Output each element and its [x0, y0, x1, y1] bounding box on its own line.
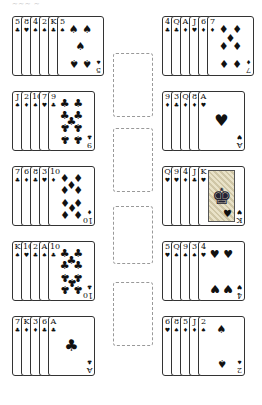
- playing-card[interactable]: 5♠5♠♠♠♠♠♠: [57, 16, 104, 76]
- card-rank: 5: [182, 318, 189, 326]
- card-rank: 4: [164, 18, 171, 26]
- card-index-top: A♠: [41, 243, 48, 258]
- card-index-top: 7♥: [41, 93, 48, 108]
- suit-icon: ♥: [164, 176, 171, 183]
- foundation-slot-4[interactable]: [113, 282, 153, 346]
- card-index-top: 3♣: [173, 93, 180, 108]
- playing-card[interactable]: 9♣9♣♣♣♣♣♣♣♣♣♣: [48, 91, 95, 151]
- playing-card[interactable]: 10♣10♣♣♣♣♣♣♣♣♣♣♣: [48, 241, 95, 301]
- suit-pip-icon: ♦: [73, 184, 83, 195]
- suit-pip-icon: ♦: [232, 41, 242, 52]
- suit-icon: ♣: [41, 326, 48, 333]
- card-index-top: A♣: [50, 318, 57, 333]
- card-rank: 6: [164, 318, 171, 326]
- card-rank: 7: [245, 66, 252, 74]
- suit-icon: ♣: [173, 101, 180, 108]
- suit-icon: ♥: [23, 26, 30, 33]
- foundation-slot-3[interactable]: [113, 206, 153, 264]
- card-index-top: K♥: [200, 168, 207, 183]
- card-index-top: 3♦: [32, 318, 39, 333]
- suit-icon: ♥: [41, 101, 48, 108]
- suit-icon: ♦: [200, 26, 207, 33]
- playing-card[interactable]: K♥K♥♚♥: [198, 166, 245, 226]
- suit-icon: ♥: [200, 251, 207, 258]
- playing-card[interactable]: 7♦7♦♦♦♦♦♦♦♦: [207, 16, 254, 76]
- card-index-bottom: A♣: [86, 359, 93, 374]
- suit-pip-icon: ♣: [60, 133, 70, 144]
- suit-icon: ♣: [164, 26, 171, 33]
- card-index-bottom: 5♠: [95, 59, 102, 74]
- card-rank: 3: [41, 168, 48, 176]
- card-rank: 10: [32, 93, 39, 101]
- suit-icon: ♠: [59, 26, 66, 33]
- suit-pip-icon: ♦: [60, 208, 70, 219]
- suit-pip-icon: ♦: [219, 41, 229, 52]
- suit-icon: ♣: [50, 326, 57, 333]
- card-index-top: 6♣: [41, 318, 48, 333]
- card-index-top: K♣: [50, 18, 57, 33]
- playing-card[interactable]: 10♦10♦♦♦♦♦♦♦♦♦♦♦: [48, 166, 95, 226]
- card-index-top: 6♥: [164, 318, 171, 333]
- card-index-top: 9♥: [173, 168, 180, 183]
- card-index-top: Q♣: [173, 18, 180, 33]
- suit-icon: ♦: [32, 326, 39, 333]
- card-index-bottom: 2♠: [236, 359, 243, 374]
- playing-card[interactable]: A♥A♥♥: [198, 91, 245, 151]
- suit-pip-icon: ♣: [60, 122, 70, 133]
- card-index-top: 7♣: [14, 318, 21, 333]
- card-rank: K: [200, 168, 207, 176]
- card-pips: ♦♦♦♦♦♦♦♦♦♦: [58, 170, 85, 222]
- card-rank: 7: [209, 18, 216, 26]
- suit-icon: ♥: [236, 209, 243, 216]
- suit-icon: ♥: [191, 26, 198, 33]
- playing-card[interactable]: A♣A♣♣: [48, 316, 95, 376]
- suit-icon: ♦: [209, 26, 216, 33]
- card-index-top: J♣: [191, 168, 198, 183]
- card-pips: ♥♥♥♥: [208, 245, 235, 297]
- foundation-slot-2[interactable]: [113, 128, 153, 192]
- card-rank: 2: [200, 318, 207, 326]
- card-rank: 2: [236, 366, 243, 374]
- card-rank: 10: [50, 168, 57, 176]
- card-index-top: 8♥: [23, 18, 30, 33]
- card-index-bottom: 7♦: [245, 59, 252, 74]
- suit-icon: ♣: [50, 26, 57, 33]
- card-index-top: 10♠: [32, 93, 39, 108]
- suit-icon: ♣: [32, 251, 39, 258]
- card-rank: A: [182, 18, 189, 26]
- card-index-top: 2♦: [23, 93, 30, 108]
- card-rank: 2: [41, 18, 48, 26]
- card-index-top: J♠: [14, 93, 21, 108]
- suit-pip-icon: ♦: [219, 57, 229, 68]
- card-index-top: 9♦: [164, 93, 171, 108]
- card-rank: 10: [23, 243, 30, 251]
- card-pips: ♣♣♣♣♣♣♣♣♣♣: [58, 245, 85, 297]
- playing-card[interactable]: 4♥4♥♥♥♥♥: [198, 241, 245, 301]
- card-rank: 6: [200, 18, 207, 26]
- suit-icon: ♣: [86, 359, 93, 366]
- suit-pip-icon: ♠: [82, 24, 92, 35]
- suit-icon: ♥: [173, 176, 180, 183]
- tableau-row-left-5: 7♣K♦3♦6♣A♣A♣♣: [12, 316, 95, 378]
- card-rank: 9: [86, 141, 93, 149]
- card-pips: ♣♣♣♣♣♣♣♣♣: [58, 95, 85, 147]
- foundation-slot-1[interactable]: [113, 53, 153, 117]
- card-rank: 3: [173, 93, 180, 101]
- suit-icon: ♣: [173, 26, 180, 33]
- card-index-top: K♦: [23, 318, 30, 333]
- suit-icon: ♠: [236, 359, 243, 366]
- card-rank: 8: [23, 18, 30, 26]
- card-index-top: 5♦: [182, 318, 189, 333]
- playing-card[interactable]: 2♠2♠♠♠: [198, 316, 245, 376]
- suit-icon: ♠: [173, 326, 180, 333]
- tableau-row-right-5: 6♥8♠5♦J♦2♠2♠♠♠: [162, 316, 245, 378]
- card-rank: 7: [14, 168, 21, 176]
- suit-icon: ♠: [182, 251, 189, 258]
- card-rank: 2: [23, 93, 30, 101]
- card-index-top: 5♠: [59, 18, 66, 33]
- card-rank: Q: [173, 18, 180, 26]
- suit-icon: ♣: [86, 284, 93, 291]
- card-index-top: J♥: [191, 18, 198, 33]
- suit-icon: ♣: [14, 326, 21, 333]
- suit-pip-icon: ♠: [69, 57, 79, 68]
